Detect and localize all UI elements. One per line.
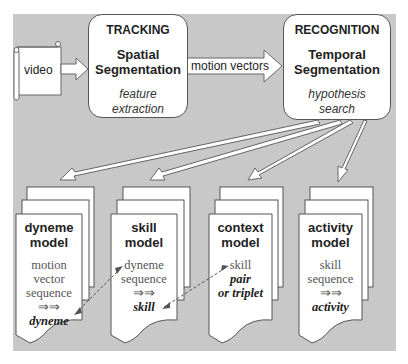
motion-vectors-label: motion vectors (190, 59, 270, 73)
recognition-sub-2: search (319, 102, 355, 116)
video-to-tracking-arrow (61, 58, 88, 80)
skill-result: skill (133, 300, 155, 314)
recognition-heading: RECOGNITION (284, 23, 390, 37)
context-model-title: contextmodel (209, 220, 272, 250)
activity-model-title: activitymodel (299, 220, 362, 250)
context-model-body: skillpairor triplet (209, 258, 272, 300)
tracking-box: TRACKING SpatialSegmentation featureextr… (88, 14, 188, 118)
video-label: video (24, 63, 53, 77)
dyneme-model-body: motionvectorsequence⇒⇒dyneme (16, 258, 82, 328)
arrow-to-context (248, 120, 353, 180)
dyneme-result: dyneme (29, 314, 69, 328)
dyneme-model-title: dynememodel (16, 220, 82, 250)
recognition-sub-1: hypothesis (308, 87, 365, 101)
tracking-title-2: Segmentation (95, 62, 181, 77)
skill-model-body: dynemesequence⇒⇒skill (111, 258, 177, 314)
activity-model-body: skillsequence⇒⇒activity (299, 258, 362, 314)
tracking-title-1: Spatial (117, 47, 160, 62)
arrow-to-dyneme (60, 120, 320, 180)
skill-model-title: skillmodel (111, 220, 177, 250)
tracking-sub-2: extraction (112, 102, 164, 116)
tracking-sub-1: feature (119, 87, 156, 101)
recognition-title-1: Temporal (308, 47, 366, 62)
recognition-box: RECOGNITION TemporalSegmentation hypothe… (283, 14, 391, 120)
recognition-title-2: Segmentation (294, 62, 380, 77)
tracking-heading: TRACKING (89, 23, 187, 37)
activity-result: activity (312, 300, 349, 314)
